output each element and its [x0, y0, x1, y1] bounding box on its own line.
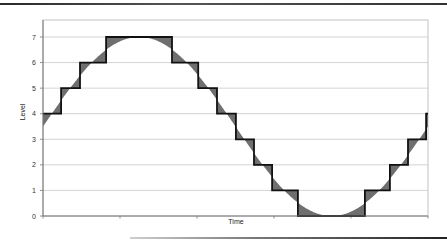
y-tick-label: 0	[32, 213, 36, 220]
bottom-rule	[130, 237, 447, 239]
quantization-chart: 01234567TimeLevel	[0, 0, 447, 240]
y-tick-label: 6	[32, 59, 36, 66]
y-tick-label: 2	[32, 161, 36, 168]
x-axis-title: Time	[228, 218, 243, 225]
y-tick-label: 5	[32, 85, 36, 92]
y-tick-label: 3	[32, 136, 36, 143]
y-tick-label: 4	[32, 110, 36, 117]
y-tick-label: 7	[32, 34, 36, 41]
y-axis-title: Level	[19, 103, 26, 120]
y-tick-label: 1	[32, 187, 36, 194]
